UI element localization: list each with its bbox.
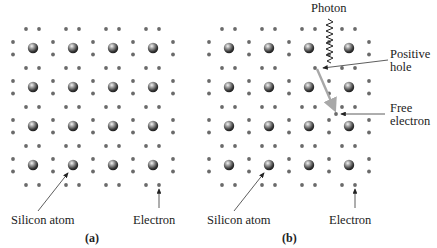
silicon-atom (108, 121, 118, 131)
silicon-atom (224, 43, 234, 53)
bond-electron (313, 183, 317, 187)
silicon-atom (108, 160, 118, 170)
bond-electron (260, 144, 264, 148)
bond-electron (91, 118, 95, 122)
bond-electron (131, 40, 135, 44)
silicon-atom (148, 43, 158, 53)
bond-electron (91, 92, 95, 96)
bond-electron (91, 157, 95, 161)
silicon-atom-pointer-a (38, 173, 68, 211)
bond-electron (91, 170, 95, 174)
bond-electron (273, 66, 277, 70)
bond-electron (144, 144, 148, 148)
bond-electron (353, 183, 357, 187)
bond-electron (51, 131, 55, 135)
bond-electron (37, 105, 41, 109)
silicon-atom (68, 160, 78, 170)
bond-electron (11, 118, 15, 122)
bond-electron (287, 79, 291, 83)
bond-electron (300, 144, 304, 148)
bond-electron (367, 170, 371, 174)
bond-electron (11, 131, 15, 135)
bond-electron (64, 144, 68, 148)
bond-electron (171, 92, 175, 96)
bond-electron (131, 131, 135, 135)
bond-electron (117, 27, 121, 31)
silicon-atom (28, 43, 38, 53)
bond-electron (24, 66, 28, 70)
bond-electron (64, 183, 68, 187)
silicon-atom (224, 82, 234, 92)
bond-electron (273, 144, 277, 148)
bond-electron (171, 157, 175, 161)
bond-electron (117, 183, 121, 187)
silicon-lattice-figure (0, 0, 437, 248)
silicon-atom-label-b: Silicon atom (207, 214, 271, 227)
silicon-atom (224, 160, 234, 170)
bond-electron (51, 170, 55, 174)
bond-electron (171, 118, 175, 122)
bond-electron (144, 66, 148, 70)
silicon-atom (264, 121, 274, 131)
bond-electron (77, 27, 81, 31)
bond-electron (220, 66, 224, 70)
bond-electron (144, 27, 148, 31)
silicon-atom (344, 160, 354, 170)
bond-electron (207, 131, 211, 135)
silicon-atom (264, 43, 274, 53)
bond-electron (300, 183, 304, 187)
bond-electron (11, 157, 15, 161)
silicon-atom (108, 82, 118, 92)
bond-electron (287, 53, 291, 57)
bond-electron (260, 27, 264, 31)
bond-electron (144, 183, 148, 187)
silicon-atom (264, 82, 274, 92)
panel-b-lattice (207, 27, 371, 187)
silicon-atom-pointer-b (234, 173, 264, 211)
bond-electron (157, 105, 161, 109)
bond-electron (260, 66, 264, 70)
bond-electron (51, 118, 55, 122)
bond-electron (313, 105, 317, 109)
bond-electron (233, 66, 237, 70)
bond-electron (340, 105, 344, 109)
electron-label-b: Electron (329, 214, 371, 227)
bond-electron (367, 118, 371, 122)
bond-electron (247, 118, 251, 122)
bond-electron (77, 105, 81, 109)
bond-electron (207, 92, 211, 96)
bond-electron (287, 40, 291, 44)
bond-electron (247, 157, 251, 161)
bond-electron (24, 183, 28, 187)
bond-electron (327, 118, 331, 122)
bond-electron (171, 170, 175, 174)
bond-electron (220, 105, 224, 109)
bond-electron (247, 53, 251, 57)
bond-electron (287, 131, 291, 135)
bond-electron (117, 144, 121, 148)
bond-electron (171, 79, 175, 83)
bond-electron (131, 53, 135, 57)
bond-electron (51, 53, 55, 57)
panel-a-caption: (a) (85, 231, 99, 246)
bond-electron (273, 105, 277, 109)
bond-electron (340, 183, 344, 187)
bond-electron (233, 183, 237, 187)
bond-electron (37, 144, 41, 148)
bond-electron (104, 27, 108, 31)
silicon-atom (148, 121, 158, 131)
bond-electron (51, 79, 55, 83)
bond-electron (247, 79, 251, 83)
bond-electron (91, 131, 95, 135)
positive-hole-label-line2: hole (390, 61, 412, 74)
bond-electron (171, 131, 175, 135)
bond-electron (157, 27, 161, 31)
electron-path-arrow (317, 69, 334, 108)
bond-electron (273, 183, 277, 187)
bond-electron (287, 118, 291, 122)
bond-electron (157, 66, 161, 70)
silicon-atom (68, 43, 78, 53)
silicon-atom (68, 121, 78, 131)
silicon-atom-label-a: Silicon atom (11, 214, 75, 227)
silicon-atom (28, 82, 38, 92)
